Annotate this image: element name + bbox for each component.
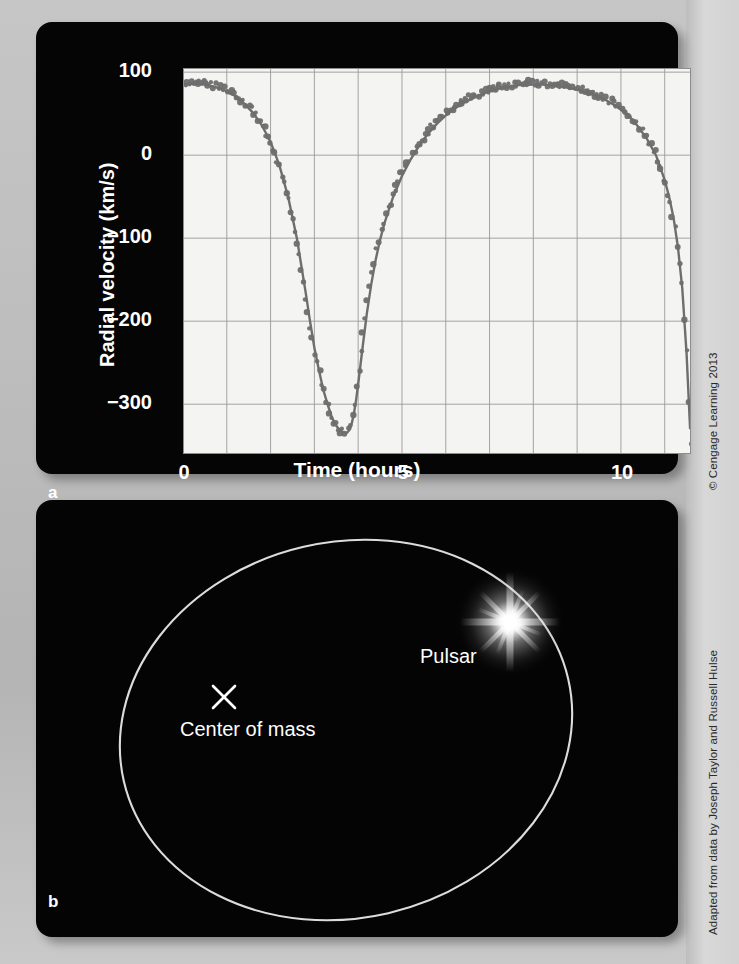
panel-b-orbit-diagram: b: [36, 500, 678, 937]
center-of-mass-x-icon: [213, 686, 235, 708]
velocity-curve-line: [183, 84, 690, 433]
source-credit: Adapted from data by Joseph Taylor and R…: [707, 650, 719, 935]
velocity-curve-svg: [183, 68, 691, 454]
panel-a-radial-velocity-chart: 100 0 −100 −200 −300 0 5 10 Radial veloc…: [36, 22, 678, 474]
panel-b-letter: b: [48, 893, 58, 910]
pulsar-label: Pulsar: [420, 645, 477, 668]
plot-frame: [184, 69, 691, 454]
x-axis-title: Time (hours): [36, 458, 678, 482]
y-tick-label: 100: [56, 60, 152, 80]
y-tick-label: 0: [56, 143, 152, 163]
y-tick-label: −300: [56, 392, 152, 412]
orbit-ellipse: [82, 500, 611, 937]
gridlines: [183, 68, 691, 454]
orbit-svg: [36, 500, 678, 937]
panel-a-letter: a: [48, 484, 57, 501]
center-of-mass-label: Center of mass: [180, 718, 316, 741]
figure-page: 100 0 −100 −200 −300 0 5 10 Radial veloc…: [0, 0, 739, 964]
plot-area: [183, 68, 691, 454]
y-axis-title: Radial velocity (km/s): [96, 162, 119, 367]
copyright-credit: © Cengage Learning 2013: [707, 353, 719, 490]
velocity-data-points: [183, 77, 691, 447]
